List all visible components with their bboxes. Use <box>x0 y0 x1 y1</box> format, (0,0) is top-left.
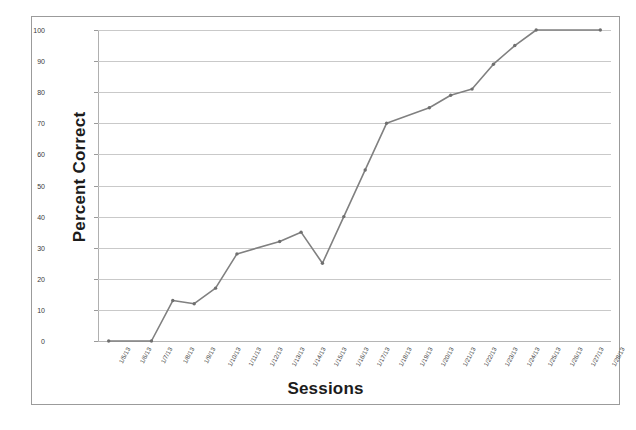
y-tick-label: 50 <box>15 182 45 189</box>
x-tick-label: 1/25/13 <box>546 346 562 368</box>
x-tick-label: 1/5/13 <box>117 346 131 364</box>
x-tick-label: 1/15/13 <box>332 346 348 368</box>
y-tick-label: 0 <box>15 338 45 345</box>
chart-frame: Percent Correct 0102030405060708090100 1… <box>31 16 620 405</box>
x-tick-label: 1/11/13 <box>247 346 263 367</box>
x-tick-label: 1/10/13 <box>226 346 242 368</box>
data-point-marker <box>171 299 174 302</box>
x-tick-label: 1/17/13 <box>375 346 391 368</box>
y-tick-mark <box>94 92 98 93</box>
y-tick-label: 80 <box>15 89 45 96</box>
x-tick-label: 1/16/13 <box>354 346 370 368</box>
y-tick-label: 70 <box>15 120 45 127</box>
data-point-marker <box>150 339 153 342</box>
y-tick-mark <box>94 186 98 187</box>
x-tick-label: 1/19/13 <box>418 346 434 368</box>
data-point-marker <box>470 87 473 90</box>
data-point-marker <box>449 94 452 97</box>
x-tick-label: 1/24/13 <box>525 346 541 368</box>
y-tick-label: 60 <box>15 151 45 158</box>
y-tick-label: 30 <box>15 244 45 251</box>
x-tick-label: 1/18/13 <box>397 346 413 368</box>
series-polyline <box>109 30 601 341</box>
data-point-marker <box>299 230 302 233</box>
y-tick-mark <box>94 61 98 62</box>
y-tick-label: 100 <box>15 27 45 34</box>
x-tick-label: 1/8/13 <box>181 346 195 364</box>
y-axis-title: Percent Correct <box>70 67 90 287</box>
x-tick-label: 1/27/13 <box>589 346 605 368</box>
x-axis-title: Sessions <box>32 379 619 399</box>
y-tick-mark <box>94 279 98 280</box>
y-tick-mark <box>94 248 98 249</box>
y-tick-mark <box>94 30 98 31</box>
x-tick-label: 1/22/13 <box>482 346 498 368</box>
x-tick-label: 1/14/13 <box>311 346 327 368</box>
x-tick-label: 1/13/13 <box>290 346 306 368</box>
y-tick-mark <box>94 217 98 218</box>
x-tick-label: 1/12/13 <box>268 346 284 368</box>
x-tick-label: 1/21/13 <box>461 346 477 368</box>
data-point-marker <box>321 262 324 265</box>
y-tick-mark <box>94 341 98 342</box>
y-tick-mark <box>94 123 98 124</box>
x-tick-label: 1/9/13 <box>202 346 216 364</box>
data-point-marker <box>278 240 281 243</box>
data-point-marker <box>492 63 495 66</box>
data-point-marker <box>513 44 516 47</box>
data-point-marker <box>599 28 602 31</box>
chart-screenshot: Percent Correct 0102030405060708090100 1… <box>0 0 636 430</box>
data-point-marker <box>428 106 431 109</box>
x-tick-label: 1/20/13 <box>439 346 455 368</box>
data-point-marker <box>235 252 238 255</box>
plot-area <box>98 30 611 341</box>
x-tick-label: 1/6/13 <box>138 346 152 364</box>
data-point-marker <box>192 302 195 305</box>
data-series-line <box>98 30 611 341</box>
data-point-marker <box>214 286 217 289</box>
y-tick-label: 10 <box>15 306 45 313</box>
data-point-marker <box>342 215 345 218</box>
x-tick-label: 1/28/13 <box>610 346 626 368</box>
data-point-marker <box>363 168 366 171</box>
y-tick-label: 40 <box>15 213 45 220</box>
data-point-marker <box>385 122 388 125</box>
x-tick-label: 1/26/13 <box>568 346 584 368</box>
data-point-marker <box>534 28 537 31</box>
y-tick-mark <box>94 154 98 155</box>
x-tick-label: 1/7/13 <box>160 346 174 364</box>
y-tick-label: 90 <box>15 58 45 65</box>
data-point-marker <box>107 339 110 342</box>
y-tick-label: 20 <box>15 275 45 282</box>
x-tick-label: 1/23/13 <box>503 346 519 368</box>
y-tick-mark <box>94 310 98 311</box>
gridline <box>98 341 611 342</box>
